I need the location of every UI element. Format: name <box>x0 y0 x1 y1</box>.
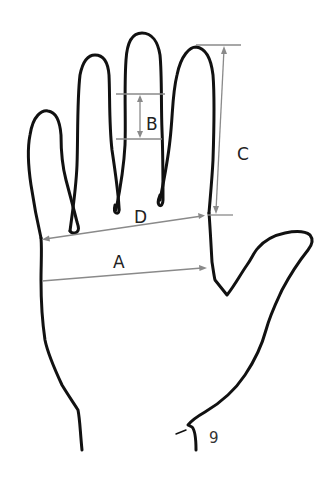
palm-left-outline <box>41 238 82 450</box>
index-finger-outline <box>160 47 214 213</box>
dimension-d-line <box>45 216 202 239</box>
dimension-d: D <box>42 207 205 242</box>
dimension-c-arrow-bottom <box>213 206 219 214</box>
dimension-a-label: A <box>113 252 125 272</box>
dimension-d-label: D <box>134 207 147 227</box>
dimension-b-label: B <box>146 114 158 134</box>
dimension-d-arrow-right <box>198 213 205 219</box>
hand-measurement-diagram: C B D A 9 <box>0 0 329 485</box>
dimension-a: A <box>42 252 207 281</box>
dimension-c-arrow-top <box>221 46 227 54</box>
page-number: 9 <box>209 429 219 447</box>
hand-outline <box>28 33 312 450</box>
dimension-b: B <box>116 94 165 139</box>
dimension-d-arrow-left <box>42 236 50 242</box>
dimension-c: C <box>196 45 249 215</box>
wrist-fragment <box>176 430 186 434</box>
ring-finger-outline <box>70 55 119 231</box>
dimension-a-arrow-right <box>199 265 207 271</box>
dimension-b-arrow-top <box>137 95 143 102</box>
dimension-c-label: C <box>237 144 249 164</box>
palm-thumb-outline <box>188 213 312 450</box>
dimension-b-arrow-bottom <box>137 131 143 138</box>
dimension-c-line <box>216 49 224 211</box>
